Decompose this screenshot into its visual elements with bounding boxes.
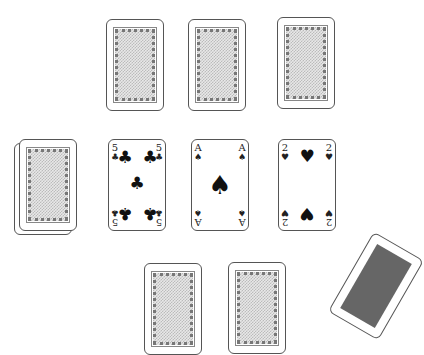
club-icon: ♣	[128, 175, 146, 192]
card-face-art	[340, 244, 412, 328]
table-card-5-clubs[interactable]: 5♣ 5♣ 5♣ 5♣ ♣ ♣ ♣ ♣ ♣	[108, 139, 166, 231]
spade-icon: ♠	[207, 172, 233, 198]
card-back-pattern	[28, 149, 68, 221]
corner-index: 2♥	[325, 208, 333, 227]
opponent-card-2	[188, 19, 246, 111]
heart-icon: ♥	[298, 205, 316, 222]
opponent-card-3	[277, 17, 335, 109]
card-back-pattern	[286, 27, 326, 99]
club-icon: ♣	[141, 205, 159, 222]
corner-index: A♠	[194, 208, 202, 227]
player-card-2[interactable]	[228, 262, 286, 354]
club-icon: ♣	[141, 149, 159, 166]
corner-index: A♠	[238, 208, 246, 227]
corner-index: 2♥	[281, 208, 289, 227]
opponent-card-1	[106, 19, 164, 111]
corner-index: A♠	[238, 143, 246, 162]
player-card-1[interactable]	[144, 263, 202, 355]
table-card-ace-spades[interactable]: A♠ A♠ A♠ A♠ ♠	[191, 139, 249, 231]
corner-index: 2♥	[325, 143, 333, 162]
moving-card	[328, 232, 424, 341]
corner-index: A♠	[194, 143, 202, 162]
table-card-2-hearts[interactable]: 2♥ 2♥ 2♥ 2♥ ♥ ♥	[278, 139, 336, 231]
card-back-pattern	[115, 29, 155, 101]
card-back-pattern	[197, 29, 237, 101]
card-back-pattern	[153, 273, 193, 345]
club-icon: ♣	[116, 149, 134, 166]
club-icon: ♣	[116, 205, 134, 222]
card-back-pattern	[237, 272, 277, 344]
deck[interactable]	[19, 139, 77, 231]
corner-index: 2♥	[281, 143, 289, 162]
heart-icon: ♥	[298, 148, 316, 165]
